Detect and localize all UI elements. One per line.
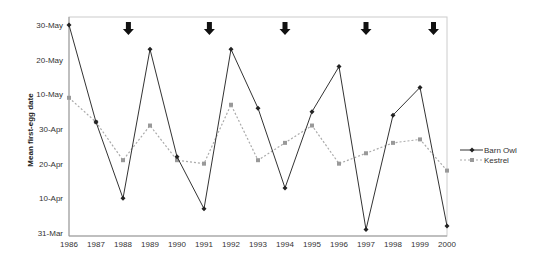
x-tick-label: 1987 bbox=[87, 240, 105, 249]
x-tick-label: 1999 bbox=[411, 240, 429, 249]
data-point bbox=[364, 227, 369, 232]
data-point bbox=[418, 137, 422, 141]
data-point bbox=[121, 158, 125, 162]
x-tick-label: 1997 bbox=[357, 240, 375, 249]
series-line bbox=[69, 25, 447, 230]
x-tick-label: 1988 bbox=[114, 240, 132, 249]
data-point bbox=[337, 162, 341, 166]
x-tick-label: 1990 bbox=[168, 240, 186, 249]
data-point bbox=[445, 169, 449, 173]
y-tick-labels: 31-Mar10-Apr20-Apr30-Apr10-May20-May30-M… bbox=[36, 21, 63, 238]
down-arrow-icon bbox=[361, 22, 372, 35]
x-tick-label: 1995 bbox=[303, 240, 321, 249]
square-marker-icon bbox=[470, 158, 474, 162]
data-point bbox=[310, 124, 314, 128]
x-tick-label: 1998 bbox=[384, 240, 402, 249]
data-point bbox=[229, 47, 234, 52]
x-tick-label: 2000 bbox=[438, 240, 456, 249]
annotation-arrows bbox=[123, 22, 439, 35]
svg-text:Barn Owl: Barn Owl bbox=[484, 146, 517, 155]
chart: 31-Mar10-Apr20-Apr30-Apr10-May20-May30-M… bbox=[0, 0, 539, 260]
x-tick-label: 1986 bbox=[60, 240, 78, 249]
y-axis-label: Mean first-egg date bbox=[26, 93, 35, 167]
down-arrow-icon bbox=[204, 22, 215, 35]
y-tick-label: 30-Apr bbox=[39, 125, 63, 134]
data-point bbox=[445, 224, 450, 229]
x-tick-labels: 1986198719881989199019911992199319941995… bbox=[60, 240, 456, 249]
y-tick-label: 10-May bbox=[36, 90, 63, 99]
x-tick-label: 1989 bbox=[141, 240, 159, 249]
data-point bbox=[283, 141, 287, 145]
diamond-marker-icon bbox=[470, 148, 475, 153]
down-arrow-icon bbox=[123, 22, 134, 35]
data-point bbox=[256, 158, 260, 162]
y-tick-label: 20-May bbox=[36, 56, 63, 65]
data-point bbox=[310, 109, 315, 114]
y-tick-label: 20-Apr bbox=[39, 160, 63, 169]
data-point bbox=[148, 124, 152, 128]
data-point bbox=[337, 64, 342, 69]
data-point bbox=[229, 103, 233, 107]
x-tick-label: 1991 bbox=[195, 240, 213, 249]
data-point bbox=[364, 151, 368, 155]
down-arrow-icon bbox=[428, 22, 439, 35]
data-point bbox=[391, 141, 395, 145]
legend-item-barn-owl: Barn Owl bbox=[460, 146, 517, 155]
x-tick-label: 1996 bbox=[330, 240, 348, 249]
x-tick-label: 1993 bbox=[249, 240, 267, 249]
legend: Barn Owl Kestrel bbox=[460, 146, 517, 165]
x-tick-label: 1992 bbox=[222, 240, 240, 249]
down-arrow-icon bbox=[280, 22, 291, 35]
data-point bbox=[67, 96, 71, 100]
data-point bbox=[148, 47, 153, 52]
legend-item-kestrel: Kestrel bbox=[460, 156, 509, 165]
series-barn-owl bbox=[67, 23, 450, 233]
data-point bbox=[256, 106, 261, 111]
data-point bbox=[202, 162, 206, 166]
data-point bbox=[121, 196, 126, 201]
data-point bbox=[283, 185, 288, 190]
data-point bbox=[202, 206, 207, 211]
y-tick-label: 30-May bbox=[36, 21, 63, 30]
y-tick-label: 10-Apr bbox=[39, 194, 63, 203]
y-tick-label: 31-Mar bbox=[38, 229, 64, 238]
data-point bbox=[67, 23, 72, 28]
svg-text:Kestrel: Kestrel bbox=[484, 156, 509, 165]
x-tick-label: 1994 bbox=[276, 240, 294, 249]
